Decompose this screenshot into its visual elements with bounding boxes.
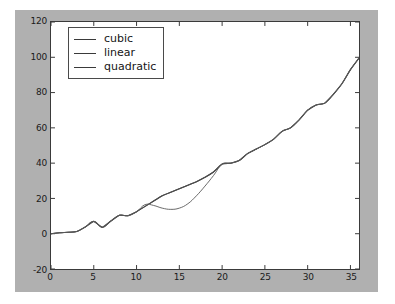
y-tick-label: 80	[36, 87, 47, 97]
y-tick-label: 60	[36, 123, 47, 133]
y-axis-tick-labels: -20020406080100120	[15, 20, 47, 272]
y-tick-label: 40	[36, 158, 47, 168]
x-tick-label: 15	[174, 272, 185, 282]
legend-line-icon-cubic	[74, 39, 96, 40]
x-tick-label: 35	[346, 272, 357, 282]
x-tick-label: 10	[131, 272, 142, 282]
x-tick-label: 30	[303, 272, 314, 282]
legend-item-quadratic: quadratic	[74, 60, 156, 74]
series-line-cubic	[51, 58, 359, 234]
series-line-quadratic	[51, 58, 359, 234]
chart-screenshot: -20020406080100120 05101520253035 cubic …	[0, 0, 395, 304]
y-tick-label: 20	[36, 194, 47, 204]
x-axis-tick-labels: 05101520253035	[50, 272, 360, 288]
y-tick-label: 100	[30, 52, 47, 62]
legend-item-cubic: cubic	[74, 32, 156, 46]
legend-box: cubic linear quadratic	[68, 27, 164, 79]
legend-label-cubic: cubic	[104, 32, 133, 46]
x-tick-label: 25	[260, 272, 271, 282]
y-tick-label: 0	[41, 229, 47, 239]
x-tick-label: 0	[47, 272, 53, 282]
y-tick-label: -20	[33, 265, 47, 275]
legend-line-icon-linear	[74, 53, 96, 54]
legend-label-linear: linear	[104, 46, 135, 60]
figure-canvas: -20020406080100120 05101520253035 cubic …	[15, 10, 378, 292]
plot-axes: cubic linear quadratic	[50, 21, 360, 270]
y-tick-label: 120	[30, 16, 47, 26]
x-tick-label: 20	[217, 272, 228, 282]
legend-item-linear: linear	[74, 46, 156, 60]
data-series-group	[51, 58, 359, 234]
legend-line-icon-quadratic	[74, 67, 96, 68]
legend-label-quadratic: quadratic	[104, 60, 156, 74]
series-line-linear	[51, 58, 359, 234]
x-tick-label: 5	[90, 272, 96, 282]
